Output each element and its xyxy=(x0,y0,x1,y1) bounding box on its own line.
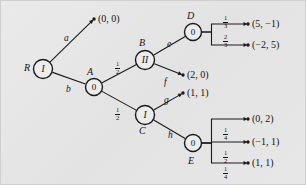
tree-node-r[interactable]: I xyxy=(34,60,53,79)
tree-node-a[interactable]: 0 xyxy=(86,79,103,96)
node-player-label: 0 xyxy=(191,138,196,148)
edge-label-e: e xyxy=(167,40,171,50)
tree-edges xyxy=(50,20,247,166)
fraction-denominator: 2 xyxy=(115,68,120,76)
terminal-node-dot xyxy=(246,43,249,46)
payoff-tm11: (−1, 1) xyxy=(252,137,279,147)
tree-edge xyxy=(50,21,92,62)
fraction-denominator: 3 xyxy=(223,22,228,30)
fraction-numerator: 1 xyxy=(115,107,120,114)
edge-label-a: a xyxy=(64,34,69,44)
edge-label-f: f xyxy=(164,78,167,88)
fraction-numerator: 1 xyxy=(223,166,228,173)
payoff-t20: (2, 0) xyxy=(187,70,209,80)
tree-edge xyxy=(53,72,86,84)
terminal-node-dot xyxy=(246,22,249,25)
node-name-D: D xyxy=(187,11,194,21)
probability-p-e-1: 14 xyxy=(223,127,228,142)
terminal-node-dot xyxy=(246,140,249,143)
fraction-denominator: 4 xyxy=(223,134,228,142)
payoff-tm25: (−2, 5) xyxy=(252,40,279,50)
fraction-denominator: 4 xyxy=(223,173,228,181)
node-player-label: 0 xyxy=(92,82,97,92)
probability-p-e-2: 12 xyxy=(223,150,228,165)
probability-p-a-b: 12 xyxy=(115,61,120,76)
tree-node-c[interactable]: I xyxy=(136,106,155,125)
fraction-denominator: 2 xyxy=(223,157,228,165)
tree-edge xyxy=(154,64,181,74)
fraction-numerator: 1 xyxy=(223,15,228,22)
fraction-numerator: 1 xyxy=(223,150,228,157)
probability-p-d-2: 23 xyxy=(223,34,228,49)
payoff-t00: (0, 0) xyxy=(98,14,120,24)
probability-p-a-c: 12 xyxy=(115,107,120,122)
node-player-label: II xyxy=(141,55,149,65)
node-name-E: E xyxy=(188,156,194,166)
tree-node-b[interactable]: II xyxy=(136,51,155,70)
payoff-t11b: (1, 1) xyxy=(252,158,274,168)
payoff-t5m1: (5, −1) xyxy=(252,19,279,29)
node-name-A: A xyxy=(87,67,93,77)
fraction-numerator: 1 xyxy=(115,61,120,68)
edge-label-g: g xyxy=(164,96,169,106)
probability-p-e-3: 14 xyxy=(223,166,228,181)
payoff-t02: (0, 2) xyxy=(252,114,274,124)
game-tree-figure: I0III00 RABCDE abefgh (0, 0)(5, −1)(−2, … xyxy=(0,0,306,185)
node-player-label: 0 xyxy=(191,27,196,37)
node-name-R: R xyxy=(24,63,30,73)
tree-nodes: I0III00 xyxy=(34,24,202,152)
fraction-numerator: 2 xyxy=(223,34,228,41)
terminal-node-dot xyxy=(246,117,249,120)
fraction-numerator: 1 xyxy=(223,127,228,134)
node-name-C: C xyxy=(139,126,146,136)
terminal-node-dot xyxy=(92,17,95,20)
node-name-B: B xyxy=(139,38,145,48)
terminal-node-dot xyxy=(246,161,249,164)
fraction-denominator: 2 xyxy=(115,114,120,122)
terminal-node-dot xyxy=(181,73,184,76)
edge-label-b: b xyxy=(66,85,71,95)
tree-node-d[interactable]: 0 xyxy=(185,24,202,41)
edge-label-h: h xyxy=(168,131,173,141)
probability-p-d-1: 13 xyxy=(223,15,228,30)
fraction-denominator: 3 xyxy=(223,41,228,49)
tree-node-e[interactable]: 0 xyxy=(185,135,202,152)
payoff-t11: (1, 1) xyxy=(187,88,209,98)
terminal-node-dot xyxy=(181,91,184,94)
